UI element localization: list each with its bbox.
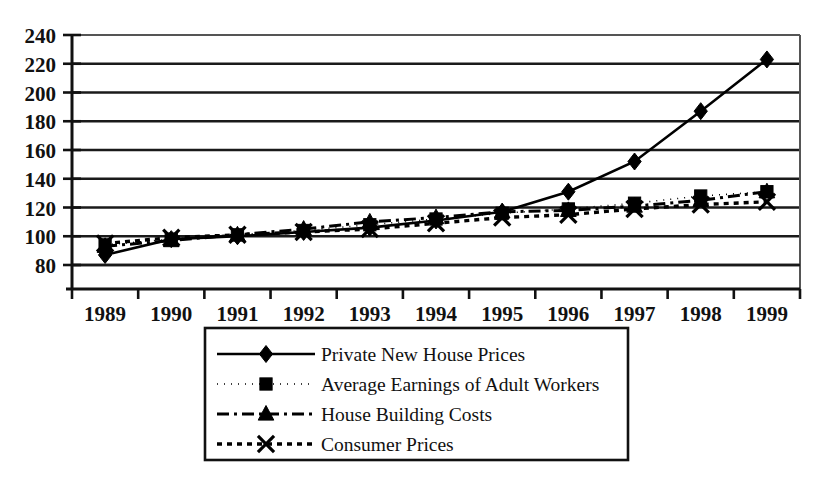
- x-axis-tick-label: 1997: [614, 302, 656, 326]
- line-chart: 24022020018016014012010080 1989199019911…: [0, 0, 827, 497]
- y-axis-tick-label: 100: [25, 225, 57, 249]
- y-axis-tick-label: 220: [25, 53, 57, 77]
- data-point-diamond: [694, 103, 707, 120]
- legend-item[interactable]: Consumer Prices: [217, 434, 454, 455]
- data-point-diamond: [628, 153, 641, 170]
- legend-item-label: House Building Costs: [321, 404, 492, 425]
- y-axis-tick-label: 180: [25, 110, 57, 134]
- chart-container: 24022020018016014012010080 1989199019911…: [0, 0, 827, 497]
- data-point-diamond: [562, 183, 575, 200]
- diamond-marker-icon: [259, 346, 272, 363]
- x-axis-labels-group: 1989199019911992199319941995199619971998…: [84, 302, 788, 326]
- x-axis-tick-label: 1991: [216, 302, 258, 326]
- plot-frame: [66, 35, 800, 289]
- legend-item-label: Average Earnings of Adult Workers: [321, 374, 599, 395]
- y-axis-tick-label: 160: [25, 139, 57, 163]
- y-axis-labels-group: 24022020018016014012010080: [25, 24, 57, 278]
- x-axis-tick-label: 1998: [680, 302, 722, 326]
- legend-item[interactable]: Average Earnings of Adult Workers: [217, 374, 599, 395]
- x-axis-tick-label: 1993: [349, 302, 391, 326]
- y-axis-tick-label: 80: [35, 254, 56, 278]
- legend-item[interactable]: House Building Costs: [217, 404, 492, 425]
- x-axis-tick-label: 1992: [283, 302, 325, 326]
- y-axis-tick-label: 140: [25, 168, 57, 192]
- y-axis-tick-label: 200: [25, 82, 57, 106]
- x-axis-tick-label: 1995: [481, 302, 523, 326]
- data-point-diamond: [760, 51, 773, 68]
- x-axis-tick-label: 1996: [547, 302, 589, 326]
- y-axis-tick-label: 240: [25, 24, 57, 48]
- square-marker-icon: [260, 378, 272, 390]
- legend-item[interactable]: Private New House Prices: [217, 344, 525, 365]
- x-axis-tick-label: 1994: [415, 302, 458, 326]
- legend-item-label: Private New House Prices: [321, 344, 525, 365]
- x-axis-tick-label: 1990: [150, 302, 192, 326]
- gridlines-group: [72, 35, 800, 265]
- y-axis-tick-label: 120: [25, 197, 57, 221]
- series-markers-group: [97, 51, 775, 264]
- x-axis-tick-label: 1999: [746, 302, 788, 326]
- x-axis-tick-label: 1989: [84, 302, 126, 326]
- legend-item-label: Consumer Prices: [321, 434, 454, 455]
- legend: Private New House PricesAverage Earnings…: [205, 328, 628, 460]
